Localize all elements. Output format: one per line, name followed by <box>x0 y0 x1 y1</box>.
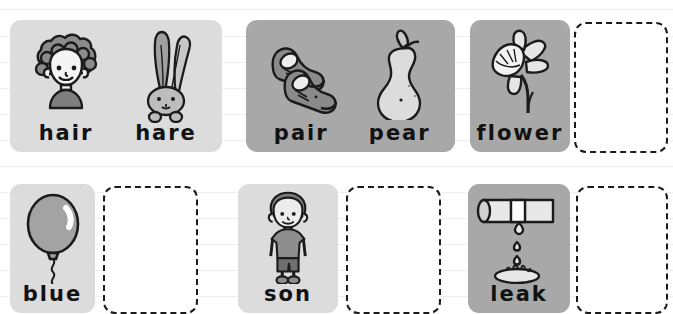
card-hair-hare[interactable]: hair <box>10 20 222 152</box>
empty-answer-box-2[interactable] <box>103 186 198 314</box>
word-leak: leak <box>490 284 548 313</box>
empty-answer-box-3[interactable] <box>346 186 441 314</box>
cell-flower[interactable]: flower <box>476 24 564 152</box>
empty-answer-box-4[interactable] <box>576 186 668 314</box>
worksheet-row-2: blue <box>0 184 673 313</box>
worksheet-row-1: hair <box>0 20 673 152</box>
empty-answer-box-label <box>105 188 106 189</box>
cell-leak[interactable]: leak <box>474 188 564 313</box>
cell-blue[interactable]: blue <box>16 188 89 313</box>
word-hair: hair <box>39 123 94 152</box>
card-items: pair <box>246 20 455 152</box>
empty-answer-box-label <box>576 24 577 25</box>
card-items: flower <box>470 20 570 152</box>
card-items: blue <box>10 184 95 313</box>
word-hare: hare <box>135 123 197 152</box>
word-pear: pear <box>369 123 431 152</box>
card-leak[interactable]: leak <box>468 184 570 313</box>
word-flower: flower <box>477 123 564 152</box>
card-items: son <box>238 184 338 313</box>
cell-son[interactable]: son <box>244 188 332 313</box>
empty-answer-box-label <box>348 188 349 189</box>
card-blue[interactable]: blue <box>10 184 95 313</box>
cell-pear[interactable]: pear <box>351 24 450 152</box>
card-items: leak <box>468 184 570 313</box>
hare-rabbit-icon <box>116 24 216 123</box>
leaking-pipe-icon <box>474 188 564 284</box>
card-flower[interactable]: flower <box>470 20 570 152</box>
word-blue: blue <box>23 284 82 313</box>
daffodil-flower-icon <box>476 24 564 123</box>
boy-child-icon <box>244 188 332 284</box>
empty-answer-box-label <box>578 188 579 189</box>
card-pair-pear[interactable]: pair <box>246 20 455 152</box>
pear-fruit-icon <box>351 24 450 123</box>
cell-hair[interactable]: hair <box>16 24 116 152</box>
balloon-icon <box>16 188 89 284</box>
pair-of-shoes-icon <box>252 24 351 123</box>
card-son[interactable]: son <box>238 184 338 313</box>
word-pair: pair <box>274 123 329 152</box>
word-son: son <box>264 284 312 313</box>
cell-pair[interactable]: pair <box>252 24 351 152</box>
curly-haired-child-icon <box>16 24 116 123</box>
card-items: hair <box>10 20 222 152</box>
cell-hare[interactable]: hare <box>116 24 216 152</box>
empty-answer-box-1[interactable] <box>574 22 668 153</box>
